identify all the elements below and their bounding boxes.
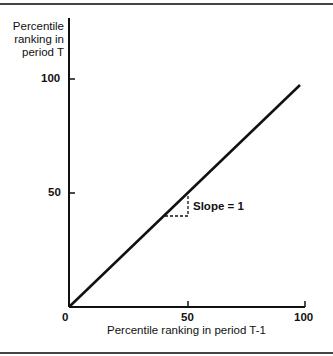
x-tick-label-50: 50 <box>181 311 194 323</box>
y-tick-label-50: 50 <box>48 186 61 198</box>
data-line <box>69 85 300 307</box>
chart-plot <box>0 0 333 356</box>
x-axis-label: Percentile ranking in period T-1 <box>0 324 333 336</box>
frame-bottom-border <box>0 352 333 354</box>
y-tick-label-100: 100 <box>41 72 60 84</box>
x-tick-label-100: 100 <box>294 311 313 323</box>
x-tick-label-0: 0 <box>62 311 68 323</box>
slope-annotation: Slope = 1 <box>193 200 244 212</box>
